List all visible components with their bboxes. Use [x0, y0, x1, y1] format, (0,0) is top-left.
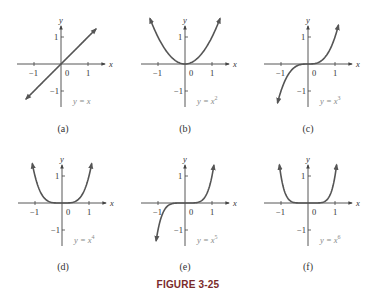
- caption-c: (c): [293, 123, 323, 134]
- svg-text:1: 1: [301, 171, 305, 181]
- caption-f: (f): [293, 261, 323, 272]
- caption-e: (e): [170, 261, 200, 272]
- svg-text:−1: −1: [29, 68, 38, 78]
- svg-text:−1: −1: [153, 207, 162, 217]
- svg-text:−1: −1: [153, 68, 162, 78]
- equation-label: y = x6: [319, 234, 341, 245]
- svg-text:x: x: [355, 59, 360, 69]
- plot-svg: xy−1011−1y = x3: [258, 14, 358, 114]
- svg-text:y: y: [182, 154, 187, 164]
- panel-f: xy−1011−1y = x6: [258, 153, 358, 253]
- svg-text:−1: −1: [276, 207, 285, 217]
- svg-text:0: 0: [312, 68, 316, 78]
- plot-svg: xy−1011−1y = x6: [258, 153, 358, 253]
- svg-text:0: 0: [312, 207, 316, 217]
- panel-a: xy−1011−1y = x: [11, 14, 111, 114]
- svg-text:−1: −1: [297, 225, 306, 235]
- svg-text:y: y: [58, 15, 63, 25]
- svg-text:1: 1: [54, 32, 58, 42]
- svg-text:−1: −1: [51, 225, 60, 235]
- svg-text:y: y: [59, 154, 64, 164]
- panel-d: xy−1011−1y = x4: [12, 153, 112, 253]
- plot-svg: xy−1011−1y = x4: [12, 153, 112, 253]
- panel-e: xy−1011−1y = x5: [135, 153, 235, 253]
- svg-text:y: y: [305, 15, 310, 25]
- caption-a: (a): [48, 123, 78, 134]
- svg-text:−1: −1: [30, 207, 39, 217]
- equation-label: y = x3: [319, 95, 341, 106]
- caption-b: (b): [170, 123, 200, 134]
- svg-text:1: 1: [55, 171, 59, 181]
- svg-text:1: 1: [210, 207, 214, 217]
- svg-text:1: 1: [301, 32, 305, 42]
- svg-text:−1: −1: [297, 86, 306, 96]
- equation-label: y = x: [72, 96, 91, 106]
- svg-text:1: 1: [86, 68, 90, 78]
- svg-text:1: 1: [333, 207, 337, 217]
- svg-text:1: 1: [87, 207, 91, 217]
- svg-text:x: x: [109, 198, 114, 208]
- svg-text:−1: −1: [174, 225, 183, 235]
- figure-title: FIGURE 3-25: [0, 279, 376, 290]
- svg-text:x: x: [232, 59, 237, 69]
- svg-text:−1: −1: [50, 86, 59, 96]
- svg-text:x: x: [108, 59, 113, 69]
- svg-text:−1: −1: [276, 68, 285, 78]
- svg-text:0: 0: [65, 68, 69, 78]
- svg-text:x: x: [232, 198, 237, 208]
- svg-text:y: y: [182, 15, 187, 25]
- svg-text:x: x: [355, 198, 360, 208]
- plot-svg: xy−1011−1y = x: [11, 14, 111, 114]
- svg-text:1: 1: [178, 171, 182, 181]
- svg-text:0: 0: [189, 68, 193, 78]
- svg-text:1: 1: [178, 32, 182, 42]
- svg-text:0: 0: [66, 207, 70, 217]
- svg-text:1: 1: [210, 68, 214, 78]
- panel-b: xy−1011−1y = x2: [135, 14, 235, 114]
- svg-text:0: 0: [189, 207, 193, 217]
- equation-label: y = x4: [73, 234, 95, 245]
- panel-c: xy−1011−1y = x3: [258, 14, 358, 114]
- plot-svg: xy−1011−1y = x2: [135, 14, 235, 114]
- plot-svg: xy−1011−1y = x5: [135, 153, 235, 253]
- caption-d: (d): [48, 261, 78, 272]
- equation-label: y = x5: [196, 234, 218, 245]
- svg-text:1: 1: [333, 68, 337, 78]
- svg-text:y: y: [305, 154, 310, 164]
- svg-text:−1: −1: [174, 86, 183, 96]
- equation-label: y = x2: [196, 95, 218, 106]
